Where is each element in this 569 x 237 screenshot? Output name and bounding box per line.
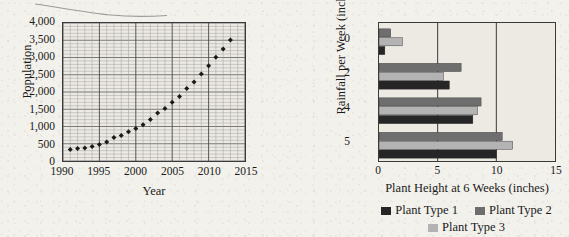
rainfall-y-tick-label: 4: [344, 102, 350, 114]
population-data-point: [199, 72, 204, 77]
population-plot-area: [62, 22, 246, 162]
population-data-point: [75, 146, 80, 151]
legend-swatch-icon: [381, 207, 391, 215]
population-x-tick-label: 1990: [51, 166, 74, 178]
legend-swatch-icon: [428, 224, 438, 232]
rainfall-bar: [379, 98, 481, 106]
rainfall-bar: [379, 38, 402, 46]
population-data-point: [228, 37, 233, 42]
population-data-point: [111, 135, 116, 140]
population-data-point: [97, 142, 102, 147]
rainfall-bar: [379, 72, 444, 80]
rainfall-bar: [379, 81, 449, 89]
population-data-point: [177, 94, 182, 99]
rainfall-y-tick-label: 0: [344, 33, 350, 45]
population-data-point: [184, 86, 189, 91]
rainfall-plot-area: [378, 22, 556, 162]
population-y-axis-ticks: 4,0003,5003,0002,5002,0001,5001,0005000: [7, 14, 55, 164]
legend-label: Plant Type 1: [395, 204, 458, 217]
legend-swatch-icon: [475, 207, 485, 215]
rainfall-x-axis-title: Plant Height at 6 Weeks (inches): [356, 181, 569, 196]
population-x-tick-label: 1995: [87, 166, 110, 178]
rainfall-legend: Plant Type 1Plant Type 2Plant Type 3: [364, 202, 569, 236]
population-scatter-chart: Population 4,0003,5003,0002,5002,0001,50…: [0, 14, 290, 204]
rainfall-bar: [379, 141, 513, 149]
legend-entry-plant-type-2[interactable]: Plant Type 2: [475, 204, 552, 217]
rainfall-y-axis-ticks: 0245: [332, 22, 350, 162]
legend-entry-plant-type-3[interactable]: Plant Type 3: [428, 221, 505, 234]
rainfall-plot-svg: [379, 23, 555, 161]
rainfall-bar: [379, 29, 391, 37]
legend-row: Plant Type 3: [364, 219, 569, 236]
population-data-point: [119, 133, 124, 138]
rainfall-x-tick-label: 10: [491, 165, 503, 177]
population-y-tick-label: 4,000: [29, 16, 55, 28]
population-data-point: [155, 111, 160, 116]
population-y-tick-label: 2,500: [29, 69, 55, 81]
population-y-tick-label: 2,000: [29, 86, 55, 98]
rainfall-x-tick-label: 15: [550, 165, 562, 177]
population-y-tick-label: 500: [38, 139, 55, 151]
rainfall-bar: [379, 46, 385, 54]
rainfall-bar-chart: Rainfall per Week (inches) 0245 051015 P…: [290, 14, 569, 237]
population-data-point: [82, 146, 87, 151]
population-data-point: [192, 79, 197, 84]
population-data-point: [206, 63, 211, 68]
population-data-point: [213, 55, 218, 60]
population-y-tick-label: 1,500: [29, 104, 55, 116]
population-data-point: [148, 117, 153, 122]
population-plot-svg: [63, 23, 245, 161]
rainfall-y-tick-label: 5: [344, 136, 350, 148]
population-data-point: [68, 147, 73, 152]
rainfall-bar: [379, 115, 473, 123]
population-x-axis-title: Year: [62, 184, 246, 199]
rainfall-x-axis-ticks: 051015: [290, 165, 569, 181]
population-x-tick-label: 2000: [124, 166, 147, 178]
population-y-tick-label: 3,000: [29, 51, 55, 63]
population-data-point: [170, 100, 175, 105]
population-y-tick-label: 3,500: [29, 34, 55, 46]
legend-entry-plant-type-1[interactable]: Plant Type 1: [381, 204, 458, 217]
rainfall-bar: [379, 63, 461, 71]
population-x-tick-label: 2005: [161, 166, 184, 178]
rainfall-bar: [379, 132, 502, 140]
rainfall-x-tick-label: 5: [434, 165, 440, 177]
legend-label: Plant Type 2: [489, 204, 552, 217]
population-x-axis-ticks: 199019952000200520102015: [0, 166, 290, 182]
rainfall-x-tick-label: 0: [375, 165, 381, 177]
population-data-point: [90, 144, 95, 149]
rainfall-bar: [379, 150, 496, 158]
legend-label: Plant Type 3: [442, 221, 505, 234]
legend-row: Plant Type 1Plant Type 2: [364, 202, 569, 219]
population-x-tick-label: 2010: [198, 166, 221, 178]
population-x-tick-label: 2015: [235, 166, 258, 178]
population-data-point: [162, 106, 167, 111]
rainfall-y-tick-label: 2: [344, 67, 350, 79]
population-y-tick-label: 1,000: [29, 121, 55, 133]
rainfall-bar: [379, 107, 478, 115]
